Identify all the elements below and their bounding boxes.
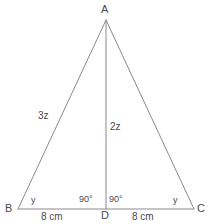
angle-label-c: y: [173, 196, 178, 205]
segment-ab: [18, 20, 106, 209]
vertex-label-d: D: [101, 210, 109, 221]
triangle-figure: [0, 0, 212, 224]
segment-ac: [106, 20, 194, 209]
vertex-label-b: B: [5, 203, 12, 214]
vertex-label-c: C: [197, 203, 205, 214]
vertex-label-a: A: [101, 4, 108, 15]
side-label-ab: 3z: [38, 111, 49, 121]
angle-label-b: y: [31, 196, 36, 205]
angle-label-adc: 90°: [109, 195, 123, 204]
side-label-altitude: 2z: [110, 122, 121, 132]
measurement-label-bd: 8 cm: [41, 212, 63, 222]
measurement-label-dc: 8 cm: [132, 212, 154, 222]
geometry-diagram: A B C D 3z 2z y y 90° 90° 8 cm 8 cm: [0, 0, 212, 224]
angle-label-adb: 90°: [79, 195, 93, 204]
